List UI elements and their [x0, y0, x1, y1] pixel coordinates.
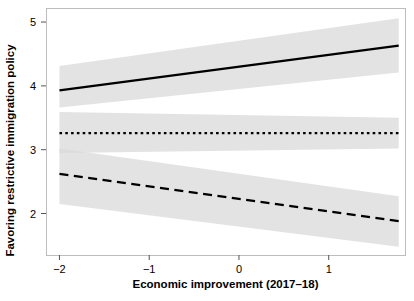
plot-canvas: [0, 0, 414, 301]
confidence-band-dashed-line: [59, 148, 398, 246]
chart-figure: Favoring restrictive immigration policy …: [0, 0, 414, 301]
confidence-band-solid-line: [59, 18, 398, 107]
